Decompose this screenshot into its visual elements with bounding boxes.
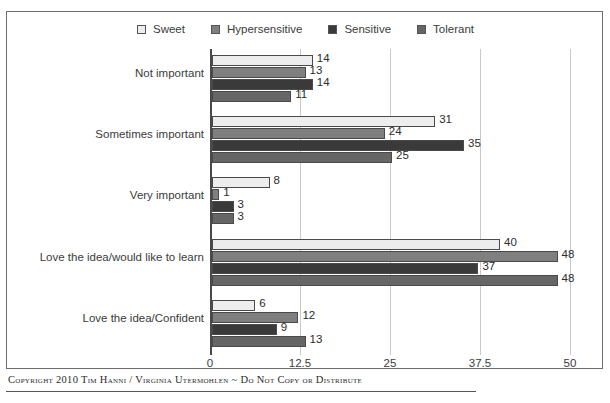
bar-row: 48 <box>212 251 570 262</box>
legend-swatch-icon <box>211 25 220 34</box>
bar-tolerant[interactable] <box>212 213 234 224</box>
bar-group: 31243525 <box>212 116 570 164</box>
bar-group: 8133 <box>212 177 570 225</box>
bar-row: 6 <box>212 300 570 311</box>
bar-row: 14 <box>212 79 570 90</box>
chart-frame: SweetHypersensitiveSensitiveTolerant Not… <box>6 11 603 369</box>
category-label: Sometimes important <box>95 128 204 140</box>
bar-value-label: 37 <box>482 260 495 272</box>
x-tick-label: 50 <box>564 357 577 369</box>
bar-sweet[interactable] <box>212 300 255 311</box>
bar-row: 12 <box>212 312 570 323</box>
bar-value-label: 13 <box>310 64 323 76</box>
legend-item-hypersensitive[interactable]: Hypersensitive <box>211 23 302 35</box>
bar-row: 8 <box>212 177 570 188</box>
bar-tolerant[interactable] <box>212 336 306 347</box>
legend-swatch-icon <box>328 25 337 34</box>
bar-value-label: 3 <box>238 198 244 210</box>
bar-sweet[interactable] <box>212 177 270 188</box>
bar-sensitive[interactable] <box>212 263 478 274</box>
bar-group: 40483748 <box>212 239 570 287</box>
bar-value-label: 31 <box>439 113 452 125</box>
bar-hypersensitive[interactable] <box>212 67 306 78</box>
x-tick-label: 25 <box>384 357 397 369</box>
bar-value-label: 25 <box>396 149 409 161</box>
bar-row: 35 <box>212 140 570 151</box>
bar-group: 612913 <box>212 300 570 348</box>
chart-page: ·· ··· · ·· · ··· · ·· ··· · · SweetHype… <box>0 0 610 403</box>
bar-value-label: 48 <box>562 248 575 260</box>
bar-row: 3 <box>212 201 570 212</box>
bar-sensitive[interactable] <box>212 140 464 151</box>
category-label: Love the idea/would like to learn <box>40 251 204 263</box>
bar-value-label: 6 <box>259 297 265 309</box>
x-tick-label: 0 <box>207 357 213 369</box>
bar-sensitive[interactable] <box>212 201 234 212</box>
bar-value-label: 35 <box>468 137 481 149</box>
scan-artifact: ·· ··· · ·· · ··· · ·· ··· · · <box>0 0 610 9</box>
bar-row: 9 <box>212 324 570 335</box>
bar-value-label: 12 <box>302 309 315 321</box>
bar-value-label: 40 <box>504 236 517 248</box>
bar-group: 14131411 <box>212 55 570 103</box>
bar-row: 37 <box>212 263 570 274</box>
legend-swatch-icon <box>417 25 426 34</box>
bar-hypersensitive[interactable] <box>212 189 219 200</box>
category-label: Very important <box>130 189 204 201</box>
legend-label: Sensitive <box>344 23 391 35</box>
bar-row: 13 <box>212 336 570 347</box>
bar-row: 48 <box>212 275 570 286</box>
bar-row: 3 <box>212 213 570 224</box>
bar-hypersensitive[interactable] <box>212 128 385 139</box>
x-tick-label: 12.5 <box>289 357 311 369</box>
bar-sweet[interactable] <box>212 55 313 66</box>
copyright-footer: Copyright 2010 Tim Hanni / Virginia Uter… <box>8 374 568 385</box>
legend-label: Tolerant <box>433 23 474 35</box>
bar-hypersensitive[interactable] <box>212 251 558 262</box>
bar-value-label: 24 <box>389 125 402 137</box>
bar-row: 40 <box>212 239 570 250</box>
bar-tolerant[interactable] <box>212 91 291 102</box>
bar-row: 24 <box>212 128 570 139</box>
bar-value-label: 11 <box>295 88 307 100</box>
legend-item-sensitive[interactable]: Sensitive <box>328 23 391 35</box>
bar-row: 14 <box>212 55 570 66</box>
legend-item-tolerant[interactable]: Tolerant <box>417 23 474 35</box>
footer-rule <box>6 391 476 392</box>
bar-row: 25 <box>212 152 570 163</box>
bar-tolerant[interactable] <box>212 152 392 163</box>
bar-value-label: 1 <box>223 186 229 198</box>
bar-value-label: 13 <box>310 333 323 345</box>
legend-label: Sweet <box>153 23 185 35</box>
legend-label: Hypersensitive <box>227 23 302 35</box>
bar-tolerant[interactable] <box>212 275 558 286</box>
x-tick-label: 37.5 <box>469 357 491 369</box>
scan-artifact-text: ·· ··· · ·· · ··· · ·· ··· · · <box>120 0 256 3</box>
bar-sensitive[interactable] <box>212 324 277 335</box>
legend-item-sweet[interactable]: Sweet <box>137 23 185 35</box>
bar-value-label: 3 <box>238 210 244 222</box>
category-label: Not important <box>135 67 204 79</box>
x-axis-tick-labels: 012.52537.550 <box>210 357 580 373</box>
legend-swatch-icon <box>137 25 146 34</box>
gridline <box>570 49 571 355</box>
bar-value-label: 9 <box>281 321 287 333</box>
category-label: Love the idea/Confident <box>83 312 204 324</box>
bar-value-label: 14 <box>317 76 330 88</box>
bar-row: 13 <box>212 67 570 78</box>
bar-row: 11 <box>212 91 570 102</box>
bar-sweet[interactable] <box>212 239 500 250</box>
bar-row: 1 <box>212 189 570 200</box>
bar-value-label: 48 <box>562 272 575 284</box>
bar-value-label: 8 <box>274 174 280 186</box>
y-axis-category-labels: Not importantSometimes importantVery imp… <box>7 49 204 355</box>
chart-legend: SweetHypersensitiveSensitiveTolerant <box>7 18 604 40</box>
bar-value-label: 14 <box>317 52 330 64</box>
plot-area: 1413141131243525813340483748612913 <box>210 49 570 355</box>
